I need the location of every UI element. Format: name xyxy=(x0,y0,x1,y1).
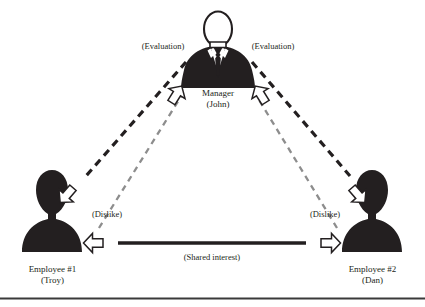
edge-label-evaluation-right: (Evaluation) xyxy=(238,41,308,52)
edge-evaluation-left-line xyxy=(86,62,186,176)
node-label-manager: Manager (John) xyxy=(183,88,253,110)
node-label-employee-1-line2: (Troy) xyxy=(5,275,100,286)
edge-label-evaluation-left: (Evaluation) xyxy=(128,41,198,52)
person-silhouette-icon-employee-1 xyxy=(22,170,82,252)
diagram-canvas: (Evaluation) (Evaluation) (Dislike) (Dis… xyxy=(0,0,425,307)
node-label-manager-line2: (John) xyxy=(183,99,253,110)
node-label-employee-1: Employee #1 (Troy) xyxy=(5,264,100,286)
edge-label-dislike-left: (Dislike) xyxy=(79,209,135,220)
edge-label-dislike-right: (Dislike) xyxy=(297,209,353,220)
node-label-employee-2-line1: Employee #2 xyxy=(349,264,397,274)
node-label-employee-2: Employee #2 (Dan) xyxy=(325,264,420,286)
arrow-shared-interest-right xyxy=(321,234,341,253)
node-label-employee-1-line1: Employee #1 xyxy=(29,264,77,274)
edge-label-shared-interest: (Shared interest) xyxy=(162,252,262,263)
arrow-shared-interest-left xyxy=(84,234,104,253)
node-label-manager-line1: Manager xyxy=(202,88,234,98)
node-label-employee-2-line2: (Dan) xyxy=(325,275,420,286)
edge-evaluation-right-line xyxy=(252,62,350,176)
